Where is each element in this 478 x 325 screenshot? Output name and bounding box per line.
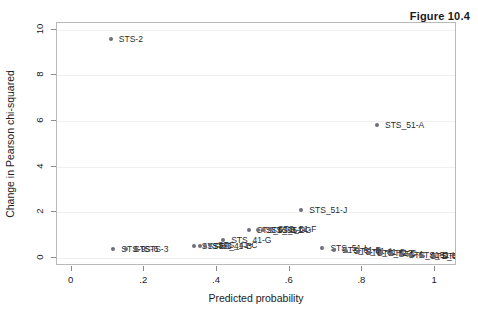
scatter-plot-frame: STS-2STS_51-ASTS_51-JSTS_51-BSTS_51-DSTS… (56, 22, 456, 265)
y-tick-label-text: 4 (34, 163, 45, 168)
scatter-point (420, 254, 424, 258)
scatter-point (332, 248, 336, 252)
x-tick-label: .8 (357, 274, 365, 285)
y-tick-label-text: 10 (34, 24, 45, 35)
scatter-point-label: STS_51-G (271, 225, 311, 235)
y-tick-label: 8 (30, 67, 48, 81)
x-tick-mark (361, 266, 362, 271)
scatter-point (408, 253, 412, 257)
scatter-point (356, 250, 360, 254)
scatter-point (192, 244, 196, 248)
y-tick-label: 10 (30, 22, 48, 36)
y-tick-mark (51, 257, 56, 258)
scatter-point (320, 246, 324, 250)
y-tick-label: 6 (30, 113, 48, 127)
scatter-point (221, 238, 225, 242)
scatter-point (399, 253, 403, 257)
scatter-point (299, 208, 303, 212)
x-tick-mark (71, 266, 72, 271)
y-tick-label-text: 0 (34, 254, 45, 259)
x-tick-mark (434, 266, 435, 271)
scatter-point (432, 254, 436, 258)
scatter-point (379, 251, 383, 255)
x-tick-label: 0 (68, 274, 73, 285)
scatter-point (109, 37, 113, 41)
y-axis-title: Change in Pearson chi-squared (2, 22, 18, 265)
y-tick-label-text: 2 (34, 209, 45, 214)
y-tick-label: 4 (30, 159, 48, 173)
scatter-point (367, 251, 371, 255)
x-axis-title: Predicted probability (56, 292, 456, 304)
scatter-point (203, 244, 207, 248)
x-tick-mark (289, 266, 290, 271)
scatter-point-label: STS_51-F (278, 224, 317, 234)
scatter-point (111, 247, 115, 251)
scatter-point (261, 228, 265, 232)
y-tick-mark (51, 211, 56, 212)
scatter-point (198, 244, 202, 248)
figure-caption: Figure 10.4 (410, 10, 470, 22)
x-tick-label: .6 (285, 274, 293, 285)
scatter-point (389, 252, 393, 256)
scatter-point (208, 243, 212, 247)
scatter-point (124, 247, 128, 251)
plot-area: STS-2STS_51-ASTS_51-JSTS_51-BSTS_51-DSTS… (57, 23, 455, 264)
scatter-point (268, 227, 272, 231)
scatter-point-label: STS_41-G (231, 235, 271, 245)
scatter-point-label: STS-3 (144, 244, 168, 254)
scatter-point-label: STS_61-A (354, 246, 393, 256)
gridline (57, 258, 455, 259)
scatter-point-label: STS_51-J (309, 205, 347, 215)
y-tick-mark (51, 166, 56, 167)
scatter-point (247, 228, 251, 232)
y-tick-mark (51, 29, 56, 30)
scatter-point-label: STS_51-C (442, 251, 455, 261)
y-tick-label-text: 6 (34, 117, 45, 122)
x-tick-mark (143, 266, 144, 271)
scatter-point (344, 249, 348, 253)
y-tick-mark (51, 74, 56, 75)
x-tick-label: 1 (432, 274, 437, 285)
y-tick-label: 2 (30, 204, 48, 218)
scatter-point (134, 247, 138, 251)
scatter-point-label: STS_51-D (266, 225, 306, 235)
y-tick-mark (51, 120, 56, 121)
figure-page: Figure 10.4 STS-2STS_51-ASTS_51-JSTS_51-… (0, 0, 478, 325)
x-tick-mark (216, 266, 217, 271)
scatter-point-label: STS-2 (119, 34, 143, 44)
scatter-point-label: STS_41-B (213, 241, 252, 251)
x-tick-label: .4 (212, 274, 220, 285)
x-tick-label: .2 (139, 274, 147, 285)
scatter-point (256, 228, 260, 232)
gridline (57, 121, 455, 122)
gridline (57, 30, 455, 31)
gridline (57, 212, 455, 213)
gridline (57, 75, 455, 76)
y-tick-label-text: 8 (34, 72, 45, 77)
y-axis-title-text: Change in Pearson chi-squared (4, 70, 16, 218)
gridline (57, 167, 455, 168)
scatter-point (375, 123, 379, 127)
y-tick-label: 0 (30, 250, 48, 264)
